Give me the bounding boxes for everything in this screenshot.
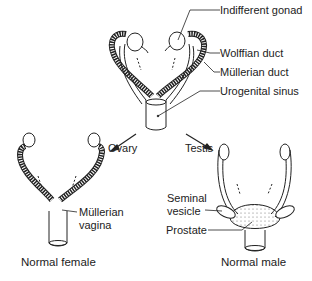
label-ovary: Ovary	[108, 142, 137, 154]
reproductive-development-diagram	[0, 0, 312, 281]
label-mullerian-vagina-1: Müllerian	[79, 206, 124, 218]
top-leader-lines	[158, 10, 220, 116]
male-diagram	[215, 144, 296, 251]
caption-normal-male: Normal male	[221, 256, 286, 268]
label-mullerian-duct: Müllerian duct	[220, 66, 288, 78]
label-urogenital-sinus: Urogenital sinus	[220, 85, 299, 97]
indifferent-stage	[112, 32, 204, 130]
label-mullerian-vagina-2: vagina	[79, 219, 111, 231]
label-prostate: Prostate	[166, 224, 207, 236]
label-wolffian-duct: Wolffian duct	[220, 47, 283, 59]
label-seminal-vesicle-1: Seminal	[167, 192, 207, 204]
caption-normal-female: Normal female	[21, 256, 96, 268]
label-indifferent-gonad: Indifferent gonad	[220, 4, 302, 16]
label-seminal-vesicle-2: vesicle	[167, 205, 201, 217]
label-testis: Testis	[185, 142, 213, 154]
